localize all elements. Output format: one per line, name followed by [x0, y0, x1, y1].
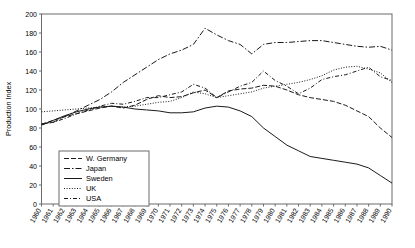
series-line-usa — [42, 67, 393, 124]
y-tick-label: 120 — [25, 87, 37, 94]
y-axis-title: Production Index — [4, 82, 13, 136]
y-tick-label: 180 — [25, 30, 37, 37]
y-tick-label: 100 — [25, 106, 37, 113]
y-tick-label: 40 — [29, 163, 37, 170]
series-line-w-germany — [42, 85, 393, 137]
y-tick-label: 60 — [29, 144, 37, 151]
y-tick-label: 20 — [29, 182, 37, 189]
y-tick-label: 160 — [25, 49, 37, 56]
production-index-line-chart: 020406080100120140160180200Production In… — [0, 0, 415, 248]
legend-label-sweden: Sweden — [86, 174, 113, 183]
series-line-uk — [42, 66, 393, 112]
series-line-japan — [42, 28, 393, 124]
y-tick-label: 200 — [25, 11, 37, 18]
legend-label-japan: Japan — [86, 164, 106, 173]
legend-label-usa: USA — [86, 194, 101, 203]
legend-label-w-germany: W. Germany — [86, 154, 127, 163]
y-tick-label: 0 — [33, 201, 37, 208]
chart-canvas: 020406080100120140160180200Production In… — [0, 0, 415, 248]
legend-label-uk: UK — [86, 184, 96, 193]
x-tick-label: 1990 — [379, 207, 393, 224]
y-tick-label: 140 — [25, 68, 37, 75]
y-tick-label: 80 — [29, 125, 37, 132]
